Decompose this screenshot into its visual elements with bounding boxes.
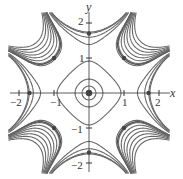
x-tick-2: 2 (155, 97, 161, 108)
center-point (146, 91, 150, 95)
x-tick-1: 1 (122, 97, 128, 108)
saddle-point (122, 126, 126, 130)
center-point (86, 90, 92, 96)
saddle-point (52, 126, 56, 130)
saddle-point (52, 56, 56, 60)
center-point (87, 31, 91, 35)
y-tick-neg2: −2 (71, 160, 83, 171)
y-tick-2: 2 (78, 16, 84, 27)
x-tick-neg2: −2 (10, 97, 22, 108)
x-axis-label: x (170, 87, 175, 99)
y-axis-label: y (86, 1, 91, 13)
saddle-point (122, 56, 126, 60)
phase-portrait (0, 0, 183, 179)
center-point (27, 91, 31, 95)
center-point (87, 150, 91, 154)
y-tick-1: 1 (79, 53, 85, 64)
y-tick-neg1: −1 (71, 124, 83, 135)
x-tick-neg1: −1 (50, 97, 62, 108)
